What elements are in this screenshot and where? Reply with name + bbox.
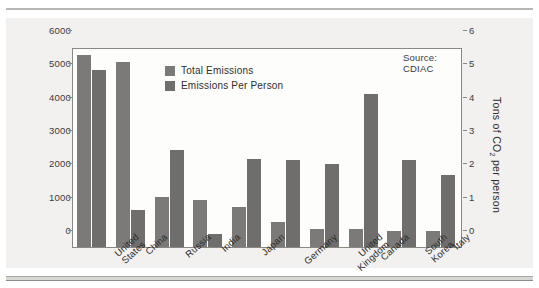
top-divider: [6, 8, 533, 10]
bottom-divider: [6, 276, 533, 281]
right-tick-label: 5: [469, 58, 489, 69]
chart-figure: Million tons of CO2 Tons of CO2 per pers…: [0, 0, 539, 288]
bar-emissions-per-person: [92, 70, 106, 247]
bar-total-emissions: [77, 55, 91, 247]
right-tick-mark: [463, 97, 467, 98]
right-tick-mark: [463, 163, 467, 164]
right-axis-title-suffix: per person: [491, 157, 503, 213]
right-tick-label: 3: [469, 125, 489, 136]
bar-series-container: [73, 49, 461, 247]
left-tick-mark: [68, 30, 72, 31]
bar-emissions-per-person: [364, 94, 378, 247]
plot-area: Source: CDIAC Total EmissionsEmissions P…: [72, 48, 462, 248]
bar-emissions-per-person: [286, 160, 300, 247]
left-tick-label: 5000: [31, 58, 71, 69]
bar-group: [349, 94, 378, 247]
left-tick-label: 0: [31, 225, 71, 236]
right-tick-label: 2: [469, 158, 489, 169]
right-tick-mark: [463, 63, 467, 64]
right-tick-mark: [463, 30, 467, 31]
right-axis-title: Tons of CO2 per person: [489, 97, 503, 213]
bar-total-emissions: [349, 229, 363, 247]
right-tick-label: 4: [469, 91, 489, 102]
left-tick-label: 1000: [31, 191, 71, 202]
right-axis-title-text: Tons of CO: [491, 97, 503, 153]
right-tick-mark: [463, 130, 467, 131]
left-tick-label: 2000: [31, 158, 71, 169]
right-tick-mark: [463, 197, 467, 198]
left-tick-label: 4000: [31, 91, 71, 102]
bar-emissions-per-person: [247, 159, 261, 247]
bar-emissions-per-person: [170, 150, 184, 247]
right-tick-label: 6: [469, 25, 489, 36]
right-tick-label: 0: [469, 225, 489, 236]
right-tick-label: 1: [469, 191, 489, 202]
bar-group: [116, 62, 145, 247]
chart-panel: Million tons of CO2 Tons of CO2 per pers…: [6, 18, 533, 268]
left-tick-label: 6000: [31, 25, 71, 36]
bar-group: [77, 55, 106, 247]
bar-total-emissions: [116, 62, 130, 247]
left-tick-label: 3000: [31, 125, 71, 136]
